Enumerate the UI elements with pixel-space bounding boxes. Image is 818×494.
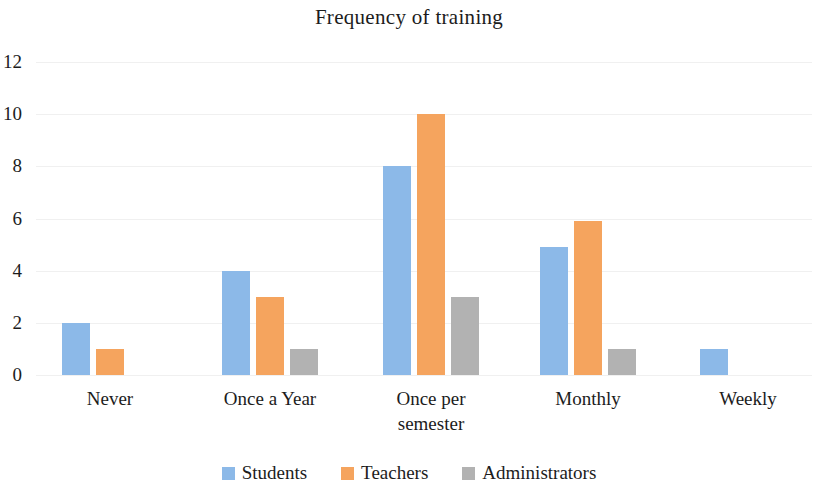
y-axis-tick-label: 8 bbox=[0, 155, 22, 177]
bar-group bbox=[222, 62, 324, 375]
legend-swatch-students-icon bbox=[222, 467, 235, 480]
y-axis-tick-label: 0 bbox=[0, 364, 22, 386]
category-label-once-per-semester: Once persemester bbox=[351, 386, 511, 436]
bar-students-never[interactable] bbox=[62, 323, 90, 375]
category-label-text: Never bbox=[87, 388, 133, 409]
y-axis-tick-label: 10 bbox=[0, 103, 22, 125]
y-axis-tick-label: 12 bbox=[0, 51, 22, 73]
plot-area: 024681012 bbox=[36, 62, 812, 375]
category-label-text: Monthly bbox=[555, 388, 620, 409]
bar-administrators-monthly[interactable] bbox=[608, 349, 636, 375]
category-label-monthly: Monthly bbox=[508, 386, 668, 411]
bar-chart: Frequency of training 024681012 NeverOnc… bbox=[0, 0, 818, 494]
category-label-text: Once a Year bbox=[224, 388, 316, 409]
category-label-text: semester bbox=[351, 411, 511, 436]
bar-students-once-per-semester[interactable] bbox=[383, 166, 411, 375]
legend-swatch-teachers-icon bbox=[341, 467, 354, 480]
chart-title: Frequency of training bbox=[0, 5, 818, 30]
category-label-never: Never bbox=[30, 386, 190, 411]
category-label-once-a-year: Once a Year bbox=[190, 386, 350, 411]
category-label-text: Once per bbox=[396, 388, 465, 409]
legend-item-teachers[interactable]: Teachers bbox=[341, 462, 428, 484]
legend-label: Students bbox=[242, 462, 307, 484]
legend-label: Administrators bbox=[482, 462, 596, 484]
bar-teachers-once-a-year[interactable] bbox=[256, 297, 284, 375]
bar-group bbox=[383, 62, 485, 375]
legend-item-administrators[interactable]: Administrators bbox=[462, 462, 596, 484]
gridline bbox=[36, 375, 812, 376]
bar-administrators-once-a-year[interactable] bbox=[290, 349, 318, 375]
legend-item-students[interactable]: Students bbox=[222, 462, 307, 484]
bar-group bbox=[540, 62, 642, 375]
bar-group bbox=[62, 62, 164, 375]
category-label-weekly: Weekly bbox=[668, 386, 818, 411]
bar-students-weekly[interactable] bbox=[700, 349, 728, 375]
legend-swatch-administrators-icon bbox=[462, 467, 475, 480]
category-label-text: Weekly bbox=[719, 388, 777, 409]
legend-label: Teachers bbox=[361, 462, 428, 484]
y-axis-tick-label: 2 bbox=[0, 312, 22, 334]
y-axis-tick-label: 4 bbox=[0, 260, 22, 282]
bar-teachers-never[interactable] bbox=[96, 349, 124, 375]
chart-legend: StudentsTeachersAdministrators bbox=[0, 462, 818, 484]
y-axis-tick-label: 6 bbox=[0, 208, 22, 230]
bar-teachers-monthly[interactable] bbox=[574, 221, 602, 375]
bar-administrators-once-per-semester[interactable] bbox=[451, 297, 479, 375]
bar-students-once-a-year[interactable] bbox=[222, 271, 250, 375]
bar-teachers-once-per-semester[interactable] bbox=[417, 114, 445, 375]
bar-students-monthly[interactable] bbox=[540, 247, 568, 375]
bar-group bbox=[700, 62, 802, 375]
